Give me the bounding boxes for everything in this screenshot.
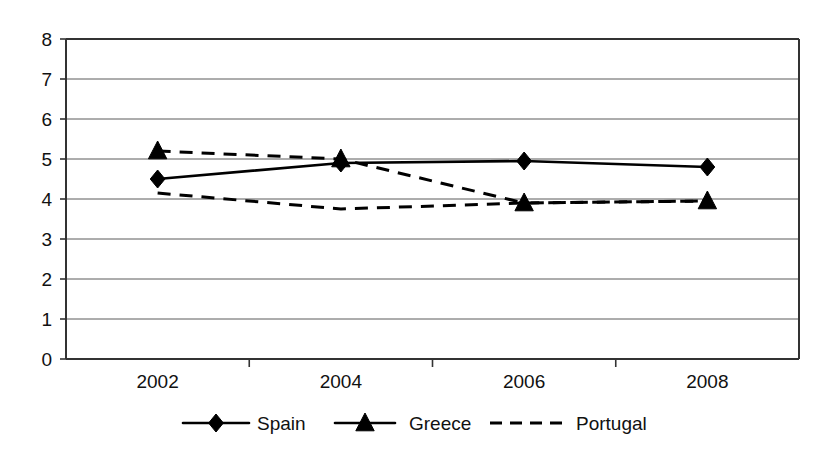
x-tick-label-2008: 2008: [686, 371, 728, 392]
x-tick-label-2004: 2004: [320, 371, 363, 392]
y-tick-label: 8: [41, 29, 52, 50]
legend-label-portugal: Portugal: [576, 413, 647, 434]
y-tick-label: 7: [41, 69, 52, 90]
chart-canvas: 012345678 2002200420062008 SpainGreecePo…: [0, 0, 839, 461]
legend-label-greece: Greece: [409, 413, 471, 434]
y-tick-label: 4: [41, 189, 52, 210]
x-tick-label-2002: 2002: [136, 371, 178, 392]
y-tick-label: 0: [41, 349, 52, 370]
y-tick-label: 2: [41, 269, 52, 290]
line-chart: 012345678 2002200420062008 SpainGreecePo…: [0, 0, 839, 461]
x-tick-label-2006: 2006: [503, 371, 545, 392]
y-tick-label: 5: [41, 149, 52, 170]
y-tick-label: 6: [41, 109, 52, 130]
y-tick-label: 1: [41, 309, 52, 330]
legend-label-spain: Spain: [257, 413, 306, 434]
y-tick-label: 3: [41, 229, 52, 250]
